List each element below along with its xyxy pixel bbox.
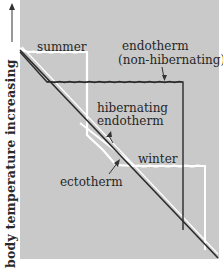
y-axis-label: body temperature increasing bbox=[3, 59, 18, 268]
label-endotherm-line1: endotherm bbox=[122, 40, 189, 53]
label-hibernating-line2: endotherm bbox=[97, 115, 164, 128]
label-ectotherm: ectotherm bbox=[60, 176, 123, 189]
label-summer: summer bbox=[37, 41, 86, 54]
ectotherm-pointer-icon bbox=[109, 159, 120, 174]
y-axis-arrow-icon bbox=[9, 3, 15, 42]
diagram-lines bbox=[0, 0, 223, 269]
label-endotherm-line2: (non-hibernating) bbox=[118, 54, 223, 67]
endotherm-pointer-icon bbox=[162, 67, 167, 81]
label-winter: winter bbox=[138, 153, 178, 166]
